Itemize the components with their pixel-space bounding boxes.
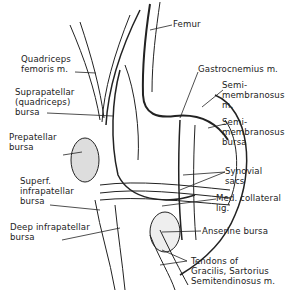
label-gastrocnemius: Gastrocnemius m. xyxy=(198,64,278,74)
label-suprapatellar-bursa: Suprapatellar (quadriceps) bursa xyxy=(15,87,74,117)
label-superf-infrapatellar-bursa: Superf. infrapatellar bursa xyxy=(20,176,74,206)
label-quadriceps-femoris: Quadriceps femoris m. xyxy=(21,54,71,74)
label-femur: Femur xyxy=(173,19,201,29)
label-med-collateral-lig: Med. collateral lig. xyxy=(216,193,281,213)
label-tendons: Tendons of Gracilis, Sartorius Semitendi… xyxy=(191,256,275,286)
label-synovial-sacs: Synovial sacs xyxy=(225,166,262,186)
label-prepatellar-bursa: Prepatellar bursa xyxy=(9,132,57,152)
label-semimembranosus-m: Semi- membranosus m. xyxy=(222,80,285,110)
label-anserine-bursa: Anserine bursa xyxy=(202,226,268,236)
label-deep-infrapatellar-bursa: Deep infrapatellar bursa xyxy=(10,222,90,242)
label-semimembranosus-bursa: Semi- membranosus bursa xyxy=(222,117,285,147)
